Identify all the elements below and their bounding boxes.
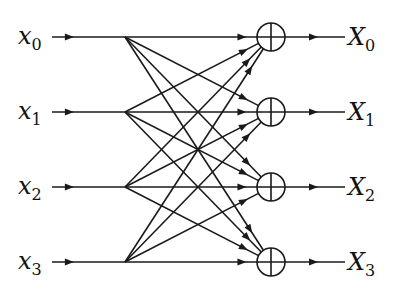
arrowhead-icon	[238, 199, 248, 206]
arrowhead-icon	[244, 66, 252, 75]
edge-3-0	[125, 49, 263, 262]
arrowhead-icon	[238, 93, 248, 100]
arrowhead-icon	[65, 109, 74, 116]
edge-0-3	[125, 37, 263, 250]
edge-2-3	[125, 187, 259, 256]
arrowhead-icon	[237, 34, 246, 41]
input-label-0: x0	[18, 22, 42, 54]
arrowhead-icon	[238, 243, 248, 250]
arrowhead-icon	[309, 259, 318, 266]
arrowhead-icon	[237, 184, 246, 191]
arrowhead-icon	[65, 184, 74, 191]
input-label-3: x3	[18, 247, 42, 279]
dft-signal-flow-graph: x0 x1 x2 x3 X0 X1 X2 X3	[0, 0, 401, 291]
arrowhead-icon	[65, 34, 74, 41]
output-label-1: X1	[346, 98, 375, 130]
output-label-3: X3	[346, 248, 375, 280]
arrowhead-icon	[238, 168, 248, 175]
arrowhead-icon	[244, 224, 252, 233]
arrowhead-icon	[309, 34, 318, 41]
output-label-0: X0	[346, 23, 375, 55]
input-labels: x0 x1 x2 x3	[18, 22, 42, 279]
arrowhead-icon	[238, 49, 248, 56]
input-label-1: x1	[18, 97, 42, 129]
input-label-2: x2	[18, 172, 42, 204]
output-labels: X0 X1 X2 X3	[346, 23, 375, 280]
arrowhead-icon	[65, 259, 74, 266]
arrowhead-icon	[237, 259, 246, 266]
output-label-2: X2	[346, 173, 375, 205]
edge-1-0	[125, 43, 259, 112]
arrowhead-icon	[237, 109, 246, 116]
arrowhead-icon	[238, 124, 248, 131]
arrowhead-icon	[309, 184, 318, 191]
arrowhead-icon	[309, 109, 318, 116]
